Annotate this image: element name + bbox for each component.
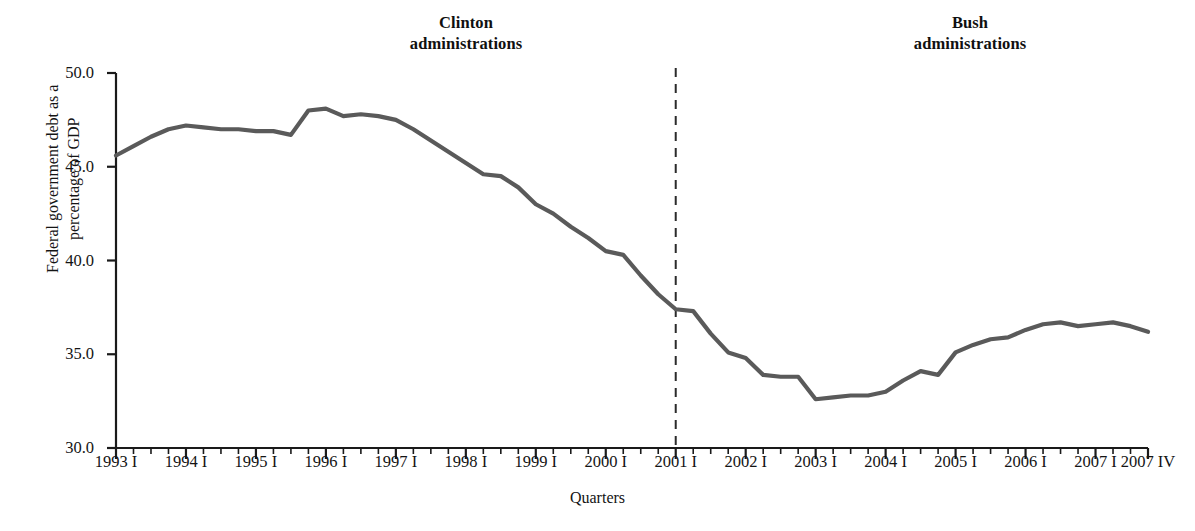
x-tick-label: 2006 I — [1004, 452, 1047, 472]
x-tick-label: 2001 I — [654, 452, 697, 472]
x-tick-label: 2002 I — [724, 452, 767, 472]
x-tick-label: 1993 I — [95, 452, 138, 472]
x-tick-label: 1994 I — [165, 452, 208, 472]
x-tick-label: 2000 I — [584, 452, 627, 472]
chart-figure: Clinton administrations Bush administrat… — [0, 0, 1195, 531]
x-tick-label: 1997 I — [375, 452, 418, 472]
x-tick-label: 1995 I — [235, 452, 278, 472]
x-tick-label: 2005 I — [934, 452, 977, 472]
x-axis-tick-labels: 1993 I1994 I1995 I1996 I1997 I1998 I1999… — [0, 0, 1195, 531]
x-tick-label: 2007 IV — [1121, 452, 1176, 472]
x-tick-label: 1996 I — [305, 452, 348, 472]
x-tick-label: 2004 I — [864, 452, 907, 472]
x-tick-label: 2003 I — [794, 452, 837, 472]
x-tick-label: 2007 I — [1074, 452, 1117, 472]
x-tick-label: 1998 I — [445, 452, 488, 472]
x-tick-label: 1999 I — [514, 452, 557, 472]
